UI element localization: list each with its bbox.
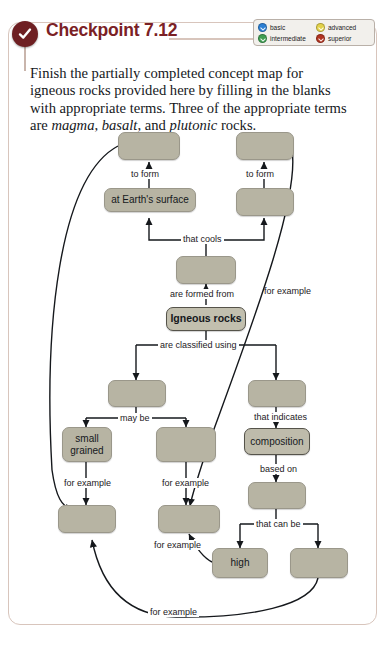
edge-label-that-indicates: that indicates [252, 412, 309, 422]
concept-node-at-earths-surface[interactable]: at Earth's surface [104, 188, 196, 212]
edge-label-for-example-right: for example [262, 286, 313, 296]
edge-label-for-example-bottom: for example [148, 607, 199, 617]
concept-node-blank-low[interactable] [290, 548, 348, 578]
concept-node-blank-top-left[interactable] [118, 132, 180, 160]
edge-label-for-example-middle: for example [160, 478, 211, 488]
edge-label-to-form-right: to form [244, 169, 276, 179]
concept-node-small-grained[interactable]: small grained [62, 427, 112, 462]
edge-label-that-can-be: that can be [254, 519, 303, 529]
concept-node-composition[interactable]: composition [244, 428, 310, 455]
concept-node-igneous-rocks[interactable]: Igneous rocks [166, 307, 246, 331]
edge-label-for-example-high: for example [152, 540, 203, 550]
edge-label-for-example-left: for example [62, 478, 113, 488]
concept-map: at Earth's surface Igneous rocks small g… [0, 0, 387, 645]
concept-node-blank-texture[interactable] [108, 380, 166, 407]
edge-label-that-cools: that cools [181, 234, 224, 244]
concept-node-blank-top-right[interactable] [236, 132, 294, 160]
concept-node-blank-granite[interactable] [158, 505, 220, 533]
concept-node-blank-coarse-grained[interactable] [156, 427, 216, 462]
concept-node-blank-magma[interactable] [176, 256, 236, 284]
edge-label-to-form-left: to form [129, 169, 161, 179]
edge-label-are-formed-from: are formed from [168, 289, 236, 299]
concept-node-high[interactable]: high [212, 548, 268, 578]
edge-label-are-classified-using: are classified using [158, 340, 239, 350]
concept-node-blank-intrusive[interactable] [236, 188, 294, 216]
edge-label-may-be: may be [118, 413, 152, 423]
edge-label-based-on: based on [258, 464, 299, 474]
concept-node-blank-silica-content[interactable] [248, 482, 306, 509]
concept-node-blank-indicator[interactable] [248, 380, 306, 407]
concept-node-blank-basalt[interactable] [58, 505, 116, 533]
